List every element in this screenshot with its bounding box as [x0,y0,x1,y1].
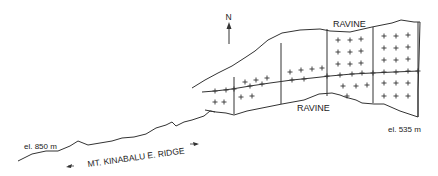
plot-marker-plus-icon [382,70,387,75]
plot-marker-plus-icon [359,61,364,66]
plot-marker-plus-icon [222,100,227,105]
plot-marker-plus-icon [350,72,355,77]
site-map: N RAVINE RAVINE el. 850 m el. 535 m MT. … [0,0,438,176]
plot-marker-plus-icon [394,94,399,99]
ridge-label: MT. KINABALU E. RIDGE [87,145,186,169]
plot-marker-plus-icon [336,38,341,43]
plot-marker-plus-icon [406,81,411,86]
north-arrow-icon [227,22,232,44]
plot-marker-plus-icon [354,84,359,89]
plot-marker-plus-icon-group [213,33,421,105]
plot-marker-plus-icon [348,62,353,67]
plot-marker-plus-icon [336,62,341,67]
plot-marker-plus-icon [382,46,387,51]
plot-marker-plus-icon [359,49,364,54]
plot-marker-plus-icon [394,81,399,86]
plot-marker-plus-icon [416,69,421,74]
plot-marker-plus-icon [360,71,365,76]
plot-marker-plus-icon [250,94,255,99]
plot-marker-plus-icon [394,34,399,39]
direction-arrow-right-icon [190,142,199,146]
plot-marker-plus-icon [325,74,330,79]
plot-marker-plus-icon [243,80,248,85]
plot-marker-plus-icon [302,77,307,82]
plot-marker-plus-icon [371,71,376,76]
elevation-bottom-label: el. 535 m [388,125,421,134]
map-drawing: N RAVINE RAVINE el. 850 m el. 535 m MT. … [0,0,438,176]
ridge-trail [18,111,215,161]
plot-marker-plus-icon [336,50,341,55]
plot-marker-plus-icon [288,70,293,75]
plot-marker-plus-icon [382,58,387,63]
plot-marker-plus-icon [394,58,399,63]
elevation-top-label: el. 850 m [24,142,57,151]
plot-marker-plus-icon [248,84,253,89]
plot-marker-plus-icon [254,78,259,83]
ravine-south-label: RAVINE [297,103,330,113]
plot-marker-plus-icon [382,81,387,86]
plot-marker-plus-icon [406,69,411,74]
plot-marker-plus-icon [320,66,325,71]
plot-marker-plus-icon [406,94,411,99]
plot-marker-plus-icon [348,38,353,43]
plot-marker-plus-icon [365,83,370,88]
plot-marker-plus-icon [239,95,244,100]
plot-marker-plus-icon [260,82,265,87]
plot-marker-plus-icon [348,50,353,55]
plot-marker-plus-icon [338,73,343,78]
plot-marker-plus-icon [406,45,411,50]
plot-marker-plus-icon [213,100,218,105]
plot-marker-plus-icon [382,34,387,39]
plot-marker-plus-icon [394,46,399,51]
plot-marker-plus-icon [359,37,364,42]
plot-marker-plus-icon [406,33,411,38]
plot-marker-plus-icon [299,68,304,73]
plot-marker-plus-icon [213,89,218,94]
plot-marker-plus-icon [394,70,399,75]
plot-marker-plus-icon [406,57,411,62]
plot-marker-plus-icon [341,84,346,89]
plot-marker-plus-icon [382,94,387,99]
plot-marker-plus-icon [290,78,295,83]
north-ravine-boundary [192,20,420,88]
direction-arrow-left-icon [66,164,74,168]
ravine-north-label: RAVINE [333,19,366,29]
north-label: N [226,12,232,22]
plot-marker-plus-icon [265,76,270,81]
plot-marker-plus-icon [232,87,237,92]
plot-marker-plus-icon [310,67,315,72]
plot-marker-plus-icon [224,88,229,93]
